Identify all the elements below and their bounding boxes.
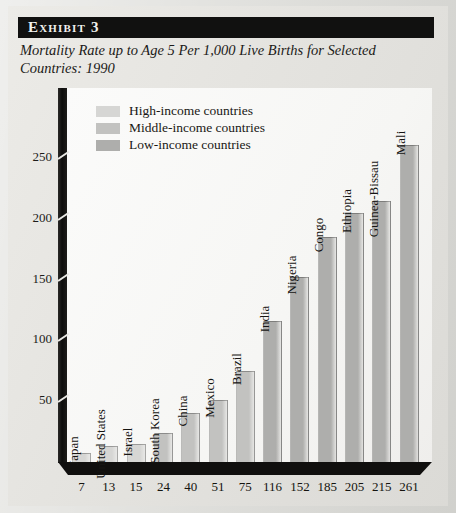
bar-value-label: 152 [286, 479, 313, 495]
bar-value-label: 7 [68, 479, 95, 495]
bar-category-label: India [257, 306, 273, 333]
bar-nigeria: Nigeria [290, 277, 309, 462]
bar-category-label: Congo [311, 218, 327, 253]
bar-value-label: 40 [177, 479, 204, 495]
bar-category-label: China [175, 396, 191, 427]
legend-item-1: Middle-income countries [96, 120, 265, 136]
legend-swatch-icon [96, 106, 120, 117]
chart-title: Mortality Rate up to Age 5 Per 1,000 Liv… [20, 42, 424, 77]
bar-category-label: Israel [120, 427, 136, 456]
chart-legend: High-income countriesMiddle-income count… [96, 103, 265, 154]
bar-category-label: Guinea-Bissau [366, 160, 382, 237]
legend-label: Low-income countries [129, 137, 251, 153]
y-tick-label: 100 [18, 331, 52, 347]
bar-category-label: Japan [66, 437, 82, 467]
exhibit-header-bar: Exhibit 3 [18, 17, 434, 38]
bar-category-label: South Korea [147, 398, 163, 463]
bar-value-label: 15 [123, 479, 150, 495]
bar-india: India [263, 321, 282, 462]
bar-japan: Japan [72, 453, 91, 462]
bar-value-label: 205 [341, 479, 368, 495]
y-tick-label: 200 [18, 210, 52, 226]
bar-israel: Israel [127, 444, 146, 462]
bar-category-label: Mali [393, 130, 409, 155]
bar-category-label: United States [93, 409, 109, 479]
bar-category-label: Brazil [229, 353, 245, 385]
bar-value-label: 261 [396, 479, 423, 495]
legend-swatch-icon [96, 123, 120, 134]
bar-south-korea: South Korea [154, 433, 173, 462]
bar-mali: Mali [400, 145, 419, 462]
bar-china: China [181, 413, 200, 462]
bar-value-label: 215 [368, 479, 395, 495]
bar-category-label: Nigeria [284, 256, 300, 295]
legend-label: Middle-income countries [129, 120, 265, 136]
bar-value-label: 116 [259, 479, 286, 495]
bar-guinea-bissau: Guinea-Bissau [372, 201, 391, 462]
y-tick-label: 150 [18, 271, 52, 287]
bar-value-label: 51 [205, 479, 232, 495]
y-tick-label: 250 [18, 149, 52, 165]
bar-category-label: Ethiopia [339, 189, 355, 233]
legend-item-0: High-income countries [96, 103, 265, 119]
exhibit-label: Exhibit 3 [28, 19, 100, 36]
bar-value-label: 13 [95, 479, 122, 495]
bar-united-states: United States [99, 446, 118, 462]
legend-item-2: Low-income countries [96, 137, 265, 153]
bar-brazil: Brazil [236, 371, 255, 462]
y-tick-label: 50 [18, 392, 52, 408]
bar-value-label: 185 [314, 479, 341, 495]
page-background: Exhibit 3 Mortality Rate up to Age 5 Per… [0, 0, 456, 513]
chart-floor [58, 462, 432, 475]
bar-value-label: 24 [150, 479, 177, 495]
bar-ethiopia: Ethiopia [345, 213, 364, 462]
bar-congo: Congo [318, 237, 337, 462]
bar-category-label: Mexico [202, 378, 218, 418]
bar-value-label: 75 [232, 479, 259, 495]
legend-swatch-icon [96, 140, 120, 151]
bar-mexico: Mexico [209, 400, 228, 462]
legend-label: High-income countries [129, 103, 253, 119]
